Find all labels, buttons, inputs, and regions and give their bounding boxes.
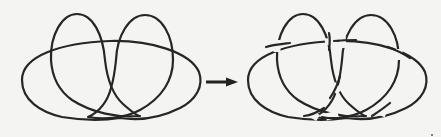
over-strands xyxy=(266,33,410,118)
knot-left-lobe xyxy=(277,14,366,116)
arrow-head-icon xyxy=(226,78,238,87)
knot-right-lobe xyxy=(314,15,399,118)
transformation-arrow xyxy=(206,78,238,87)
corner-mark xyxy=(431,134,433,136)
knot-transformation-figure xyxy=(0,0,441,137)
shadow-right-lobe xyxy=(88,15,173,118)
right-knot-diagram xyxy=(248,14,426,120)
shadow-left-lobe xyxy=(51,14,140,116)
left-knot-shadow xyxy=(22,14,200,120)
crossing-gaps xyxy=(277,36,399,118)
